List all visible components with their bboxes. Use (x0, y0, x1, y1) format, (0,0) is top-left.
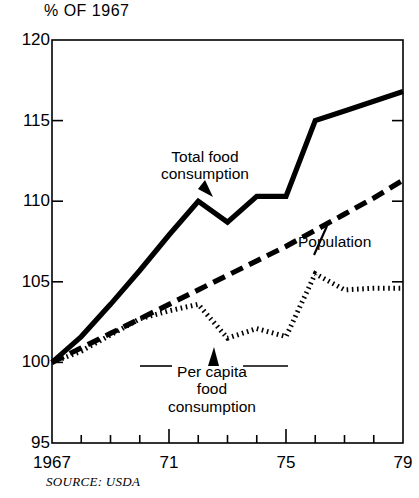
series-annotation-total-food: Total food consumption (161, 148, 249, 183)
series-annotation-per-capita-line1: Per capita (168, 363, 256, 380)
series-annotation-population: Population (298, 233, 371, 250)
series-annotation-per-capita-line2: food (168, 380, 256, 397)
chart-container: % OF 1967 120 115 110 105 100 95 1967 71… (0, 0, 419, 498)
series-annotation-population-line1: Population (298, 233, 371, 250)
series-line-per-capita-food-consumption (52, 274, 403, 363)
series-line-population (52, 180, 403, 362)
source-note: SOURCE: USDA (46, 474, 140, 490)
series-annotation-per-capita: Per capita food consumption (168, 363, 256, 415)
series-annotation-per-capita-line3: consumption (168, 398, 256, 415)
series-line-total-food-consumption (52, 92, 403, 363)
series-annotation-total-food-line1: Total food (161, 148, 249, 165)
series-annotation-total-food-line2: consumption (161, 165, 249, 182)
